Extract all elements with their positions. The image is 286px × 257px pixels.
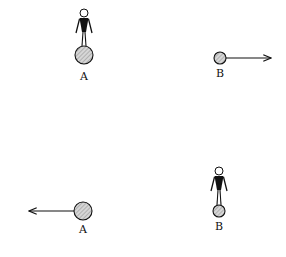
ball-b-icon — [213, 205, 225, 217]
label-a-bottom: A — [78, 223, 88, 236]
label-a-top: A — [79, 70, 89, 83]
top-ball-b-moving: B — [214, 52, 271, 80]
ball-a-icon — [74, 202, 92, 220]
collision-diagram: A B A B — [0, 0, 286, 257]
bottom-ball-a-moving: A — [29, 202, 92, 236]
bottom-ball-b-with-person: B — [211, 167, 227, 233]
label-b-bottom: B — [215, 220, 223, 233]
person-icon — [76, 9, 92, 46]
top-ball-a-with-person: A — [75, 9, 93, 83]
person-icon — [211, 167, 227, 205]
ball-b-icon — [214, 52, 226, 64]
label-b-top: B — [216, 67, 224, 80]
ball-a-icon — [75, 46, 93, 64]
